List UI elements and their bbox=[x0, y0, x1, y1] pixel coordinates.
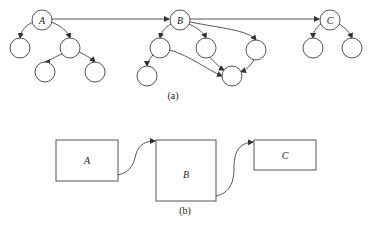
edge bbox=[160, 24, 171, 38]
tree-c: C bbox=[303, 10, 362, 58]
node-label-a: A bbox=[38, 15, 46, 26]
edge bbox=[313, 24, 321, 38]
tree-a: A bbox=[10, 10, 105, 82]
tree-node bbox=[35, 62, 55, 82]
box-label-b: B bbox=[183, 169, 189, 180]
caption-b: (b) bbox=[179, 205, 191, 217]
node-label-c: C bbox=[327, 15, 334, 26]
edge bbox=[241, 60, 254, 72]
edge bbox=[210, 57, 224, 70]
tree-node bbox=[137, 66, 157, 86]
edge bbox=[45, 54, 62, 62]
box-label-c: C bbox=[282, 150, 289, 161]
tree-node bbox=[150, 38, 170, 58]
tree-node bbox=[196, 38, 216, 58]
edge bbox=[190, 22, 256, 40]
arrow-box-a-to-b bbox=[118, 141, 155, 175]
diagram-canvas: A B C (a) A B C (b) bbox=[0, 0, 376, 232]
edge bbox=[51, 22, 70, 38]
tree-node-shared bbox=[222, 66, 242, 86]
tree-node bbox=[246, 40, 266, 60]
tree-node bbox=[303, 38, 323, 58]
node-label-b: B bbox=[177, 15, 183, 26]
tree-node bbox=[85, 62, 105, 82]
caption-a: (a) bbox=[167, 90, 178, 102]
box-label-a: A bbox=[83, 155, 91, 166]
tree-node bbox=[10, 38, 30, 58]
edge bbox=[147, 55, 153, 66]
edge bbox=[339, 24, 352, 38]
edge bbox=[20, 22, 33, 38]
tree-b: B bbox=[137, 10, 266, 86]
tree-node bbox=[60, 38, 80, 58]
arrow-box-b-to-c bbox=[216, 142, 253, 196]
edge bbox=[189, 24, 206, 38]
edge bbox=[79, 52, 95, 62]
tree-node bbox=[342, 38, 362, 58]
